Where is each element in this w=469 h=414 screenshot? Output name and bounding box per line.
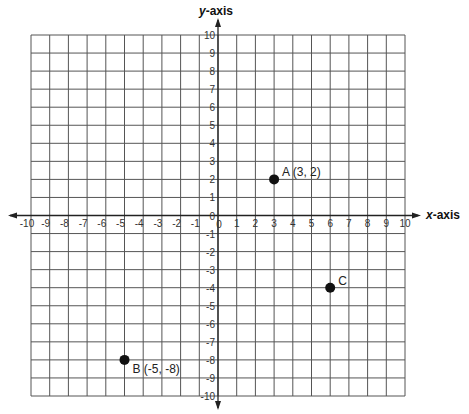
x-tick-label: -8 [60,218,69,229]
point-a [269,174,279,184]
x-tick-label: 7 [346,218,352,229]
x-tick-label: 1 [234,218,240,229]
y-tick-label: 6 [209,102,215,113]
x-tick-label: -10 [20,218,35,229]
x-tick-label: -1 [191,218,200,229]
y-tick-label: -8 [206,355,215,366]
y-tick-label: 2 [209,174,215,185]
y-tick-label: 0 [209,211,215,222]
point-label-c: C [338,274,347,288]
x-tick-label: -4 [135,218,144,229]
x-tick-label: 3 [271,218,277,229]
origin-label: 0 [216,219,222,230]
x-tick-label: -6 [97,218,106,229]
x-tick-label: 9 [384,218,390,229]
x-tick-label: 5 [309,218,315,229]
x-axis-label: x-axis [425,208,460,222]
y-tick-label: -3 [206,265,215,276]
x-tick-label: -7 [79,218,88,229]
x-tick-label: 10 [399,218,411,229]
x-tick-label: -3 [153,218,162,229]
y-axis-arrow-up-icon [215,18,221,27]
x-tick-label: 8 [365,218,371,229]
point-label-a: A (3, 2) [282,165,321,179]
point-c [325,283,335,293]
x-tick-label: -5 [116,218,125,229]
y-tick-label: 9 [209,48,215,59]
x-axis-arrow-left-icon [8,213,17,219]
x-tick-label: -9 [41,218,50,229]
x-axis-arrow-right-icon [412,213,421,219]
y-tick-label: -9 [206,373,215,384]
y-tick-label: -1 [206,229,215,240]
x-tick-label: 6 [327,218,333,229]
x-tick-label: 2 [253,218,259,229]
y-tick-label: 3 [209,156,215,167]
y-axis-arrow-down-icon [215,401,221,410]
y-tick-label: 8 [209,66,215,77]
y-tick-label: -5 [206,301,215,312]
point-b [120,355,130,365]
y-tick-label: 4 [209,138,215,149]
y-tick-label: -10 [201,391,216,402]
y-tick-label: -2 [206,247,215,258]
y-axis-label: y-axis [198,4,233,18]
y-tick-label: -4 [206,283,215,294]
coordinate-plane: -10-9-8-7-6-5-4-3-2-11234567891010987654… [0,0,469,414]
y-tick-label: 1 [209,192,215,203]
y-tick-label: 5 [209,120,215,131]
y-tick-label: 10 [204,30,216,41]
coordinate-plane-svg: -10-9-8-7-6-5-4-3-2-11234567891010987654… [0,0,469,414]
y-tick-label: -6 [206,319,215,330]
x-tick-label: -2 [172,218,181,229]
y-tick-label: -7 [206,337,215,348]
x-tick-label: 4 [290,218,296,229]
y-tick-label: 7 [209,84,215,95]
point-label-b: B (-5, -8) [133,362,180,376]
